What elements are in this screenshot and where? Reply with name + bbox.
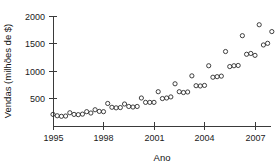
data-point <box>190 74 194 78</box>
data-point <box>139 96 143 100</box>
data-point <box>219 74 223 78</box>
data-point <box>165 96 169 100</box>
data-point <box>110 105 114 109</box>
data-point <box>118 105 122 109</box>
data-point <box>135 104 139 108</box>
data-point <box>249 51 253 55</box>
data-point <box>253 53 257 57</box>
data-points <box>51 23 274 119</box>
data-point <box>80 112 84 116</box>
data-point <box>160 96 164 100</box>
data-point <box>101 110 105 114</box>
data-point <box>211 75 215 79</box>
x-tick-label: 2004 <box>194 133 214 143</box>
data-point <box>143 100 147 104</box>
data-point <box>93 108 97 112</box>
data-point <box>194 84 198 88</box>
x-tick-label: 1995 <box>43 133 63 143</box>
data-point <box>127 104 131 108</box>
data-point <box>223 49 227 53</box>
data-point <box>59 114 63 118</box>
data-point <box>64 114 68 118</box>
data-point <box>148 100 152 104</box>
data-point <box>55 114 59 118</box>
data-point <box>106 101 110 105</box>
x-tick-label: 1998 <box>93 133 113 143</box>
x-tick-label: 2007 <box>245 133 265 143</box>
data-point <box>215 75 219 79</box>
data-point <box>72 112 76 116</box>
data-point <box>266 41 270 45</box>
data-point <box>257 23 261 27</box>
sales-scatter-chart: 50010001500200019951998200120042007 Vend… <box>0 0 279 168</box>
data-point <box>76 113 80 117</box>
y-tick-label: 2000 <box>25 12 45 22</box>
axis-ticks: 50010001500200019951998200120042007 <box>25 12 266 143</box>
data-point <box>68 111 72 115</box>
y-axis-title: Vendas (milhões de $) <box>2 24 13 119</box>
data-point <box>207 64 211 68</box>
data-point <box>177 90 181 94</box>
y-tick-label: 1500 <box>25 39 45 49</box>
data-point <box>131 105 135 109</box>
data-point <box>240 34 244 38</box>
data-point <box>228 64 232 68</box>
data-point <box>186 90 190 94</box>
data-point <box>236 63 240 67</box>
data-point <box>152 100 156 104</box>
data-point <box>122 102 126 106</box>
data-point <box>85 110 89 114</box>
x-tick-label: 2001 <box>144 133 164 143</box>
y-tick-label: 500 <box>30 94 45 104</box>
data-point <box>261 43 265 47</box>
data-point <box>89 111 93 115</box>
y-tick-label: 1000 <box>25 67 45 77</box>
data-point <box>181 90 185 94</box>
data-point <box>97 109 101 113</box>
x-axis-title: Ano <box>154 152 171 163</box>
data-point <box>173 82 177 86</box>
chart-canvas: 50010001500200019951998200120042007 Vend… <box>0 0 279 168</box>
data-point <box>198 84 202 88</box>
data-point <box>169 95 173 99</box>
data-point <box>202 83 206 87</box>
data-point <box>156 90 160 94</box>
data-point <box>232 64 236 68</box>
data-point <box>114 106 118 110</box>
data-point <box>270 29 274 33</box>
data-point <box>244 52 248 56</box>
